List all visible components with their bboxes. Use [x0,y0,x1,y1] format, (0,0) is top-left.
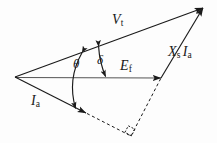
phasor-diagram-figure: Vt XsIa Ef Ia θ δ [0,0,217,143]
label-power-factor-angle: θ [73,57,79,70]
phasor-ef-line [15,78,161,79]
phasor-xsia-line [161,8,203,78]
phasor-vt-line [15,8,203,77]
label-ef-subscript: f [129,64,132,74]
label-ef-symbol: E [120,58,129,73]
label-ia-symbol: I [31,93,36,108]
label-xsia-symbol: X [168,44,177,59]
label-terminal-voltage: Vt [112,13,123,29]
phasor-diagram-canvas [0,0,217,143]
label-vt-subscript: t [121,18,124,28]
construction-perpendicular-projection [131,78,161,136]
label-xsia-subscript: s [177,50,181,60]
label-xsia-subscript2: a [187,50,191,60]
label-excitation-voltage: Ef [120,59,132,75]
label-reactance-drop: XsIa [168,45,192,61]
label-ia-subscript: a [36,99,40,109]
label-vt-symbol: V [112,12,121,27]
label-armature-current: Ia [31,94,40,110]
label-torque-angle: δ [97,53,103,66]
